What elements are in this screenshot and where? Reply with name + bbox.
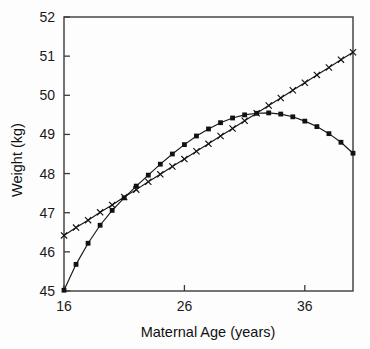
y-tick-label: 52	[39, 9, 55, 25]
y-tick-label: 48	[39, 166, 55, 182]
data-point-marker	[302, 80, 308, 86]
data-point-marker	[193, 148, 199, 154]
data-point-marker	[230, 116, 235, 121]
data-point-marker	[182, 142, 187, 147]
x-tick-label: 36	[297, 298, 313, 314]
data-point-marker	[146, 173, 151, 178]
y-axis-title: Weight (kg)	[9, 123, 25, 197]
data-point-marker	[290, 114, 295, 119]
series-quadratic-fit	[62, 111, 356, 293]
data-point-marker	[278, 112, 283, 117]
data-point-marker	[145, 179, 151, 185]
data-point-marker	[217, 133, 223, 139]
data-point-marker	[339, 140, 344, 145]
data-point-marker	[157, 171, 163, 177]
data-point-marker	[229, 125, 235, 131]
data-point-marker	[181, 156, 187, 162]
y-tick-label: 47	[39, 205, 55, 221]
data-point-marker	[242, 112, 247, 117]
y-tick-label: 45	[39, 283, 55, 299]
chart-figure: 4546474849505152 162636 Maternal Age (ye…	[0, 0, 370, 349]
data-point-marker	[85, 217, 91, 223]
data-point-marker	[314, 124, 319, 129]
y-tick-label: 46	[39, 244, 55, 260]
data-point-marker	[314, 72, 320, 78]
data-point-marker	[206, 127, 211, 132]
x-tick-label: 26	[177, 298, 193, 314]
data-point-marker	[326, 64, 332, 70]
data-point-marker	[98, 223, 103, 228]
y-tick-label: 50	[39, 87, 55, 103]
series-linear-fit	[61, 49, 356, 238]
data-series-group	[61, 49, 356, 292]
data-point-marker	[86, 241, 91, 246]
plot-border	[64, 17, 353, 291]
data-point-marker	[242, 118, 248, 124]
x-axis-title: Maternal Age (years)	[141, 324, 276, 340]
data-point-marker	[327, 131, 332, 136]
data-point-marker	[194, 134, 199, 139]
data-point-marker	[158, 162, 163, 167]
data-point-marker	[338, 57, 344, 63]
chart-canvas: 4546474849505152 162636 Maternal Age (ye…	[0, 0, 370, 349]
x-axis-ticks: 162636	[56, 285, 313, 314]
data-point-marker	[74, 262, 79, 267]
data-point-marker	[351, 151, 356, 156]
data-point-marker	[109, 202, 115, 208]
data-point-marker	[110, 208, 115, 213]
data-point-marker	[62, 288, 67, 293]
data-point-marker	[205, 141, 211, 147]
data-point-marker	[278, 95, 284, 101]
data-point-marker	[290, 87, 296, 93]
y-tick-label: 49	[39, 126, 55, 142]
plot-frame	[64, 17, 353, 291]
data-point-marker	[302, 119, 307, 124]
data-point-marker	[170, 152, 175, 157]
data-point-marker	[97, 209, 103, 215]
data-point-marker	[218, 120, 223, 125]
data-point-marker	[266, 102, 272, 108]
series-line	[64, 113, 353, 290]
data-point-marker	[266, 111, 271, 116]
x-tick-label: 16	[56, 298, 72, 314]
y-tick-label: 51	[39, 48, 55, 64]
data-point-marker	[73, 224, 79, 230]
y-axis-ticks: 4546474849505152	[39, 9, 70, 299]
data-point-marker	[169, 163, 175, 169]
